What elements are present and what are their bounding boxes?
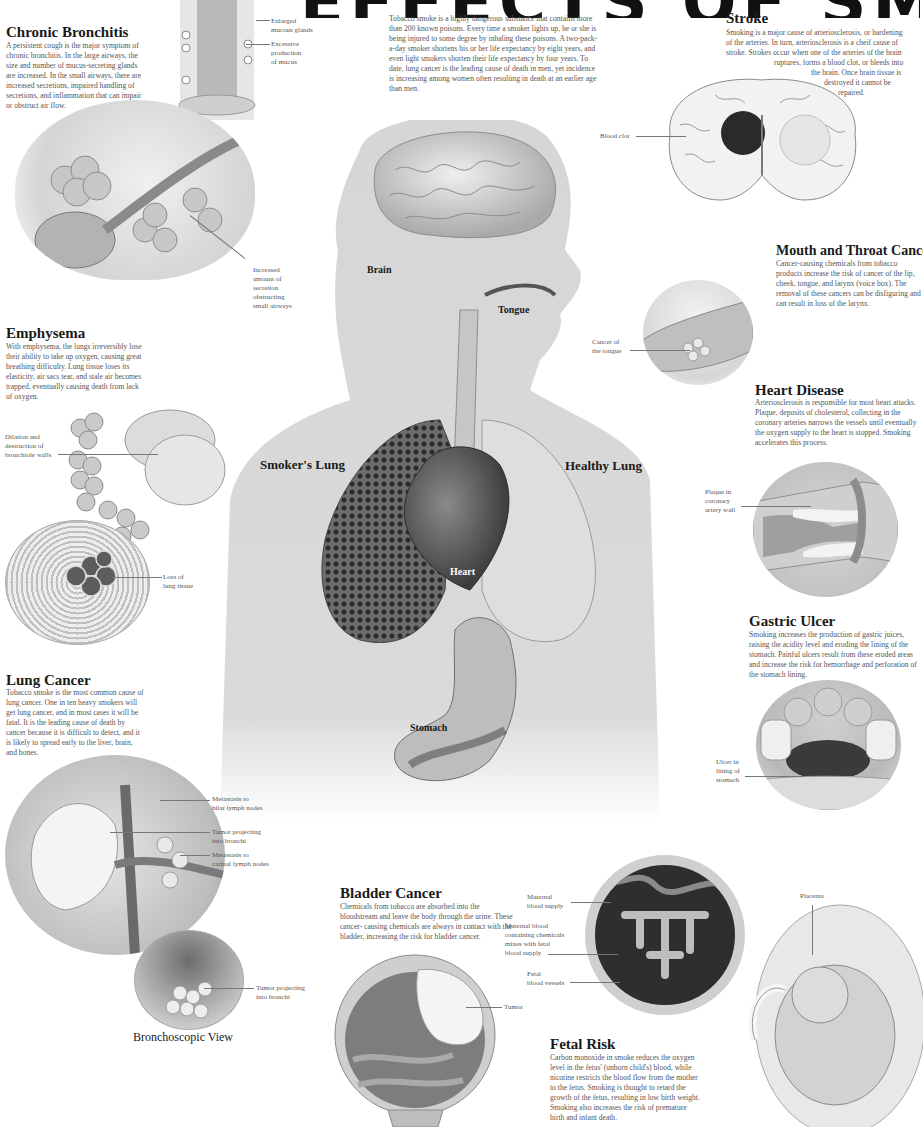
heading-bladder-cancer: Bladder Cancer — [340, 885, 442, 902]
leader-line — [636, 136, 686, 137]
callout-placenta: Placenta — [800, 892, 824, 901]
lung-tissue-circle-illustration — [5, 520, 150, 645]
heading-fetal-risk: Fetal Risk — [550, 1036, 615, 1053]
callout-excessive-mucus: Excessive production of mucus — [271, 40, 301, 67]
heading-stroke: Stroke — [726, 10, 768, 27]
label-smokers-lung: Smoker's Lung — [260, 457, 345, 473]
label-tongue: Tongue — [498, 304, 529, 315]
leader-line — [112, 577, 162, 578]
callout-dilation-bronchiole-walls: Dilation and destruction of bronchiole w… — [5, 433, 51, 460]
bladder-tumor-illustration — [333, 950, 498, 1127]
heading-heart-disease: Heart Disease — [755, 382, 844, 399]
text-emphysema: With emphysema, the lungs irreversibly l… — [6, 342, 142, 402]
heading-mouth-throat-cancer: Mouth and Throat Cancer — [776, 243, 923, 259]
leader-line — [246, 44, 270, 45]
callout-cancer-of-tongue: Cancer of the tongue — [592, 338, 621, 356]
label-stomach: Stomach — [410, 722, 447, 733]
stomach-ulcer-circle-illustration — [756, 680, 901, 810]
callout-loss-of-lung-tissue: Loss of lung tissue — [163, 573, 193, 591]
heading-lung-cancer: Lung Cancer — [6, 672, 91, 689]
callout-metastasis-hilar: Metastasis to hilar lymph nodes — [212, 795, 263, 813]
callout-increased-secretion: Increased amount of secretion obstructin… — [253, 266, 292, 311]
label-heart: Heart — [450, 566, 475, 577]
callout-metastasis-carinal: Metastasis to carinal lymph nodes — [212, 851, 269, 869]
text-gastric-ulcer: Smoking increases the production of gast… — [749, 630, 921, 680]
leader-line — [110, 832, 210, 833]
intro-paragraph: Tobacco smoke is a highly dangerous subs… — [389, 14, 599, 94]
text-lung-cancer: Tobacco smoke is the most common cause o… — [6, 688, 144, 758]
artery-plaque-circle-illustration — [753, 462, 898, 597]
leader-line — [571, 902, 611, 903]
text-heart-disease: Arteriosclerosis is responsible for most… — [755, 398, 920, 448]
label-healthy-lung: Healthy Lung — [565, 458, 642, 474]
heading-chronic-bronchitis: Chronic Bronchitis — [6, 24, 128, 41]
callout-tumor-bronchi-scope: Tumor projecting into bronchi — [256, 984, 305, 1002]
callout-maternal-blood-chemicals: Maternal blood containing chemicals mixe… — [505, 922, 564, 958]
leader-line — [812, 905, 813, 955]
brain-cross-section-illustration — [655, 75, 870, 205]
subheading-bronchoscopic-view: Bronchoscopic View — [133, 1030, 233, 1045]
leader-line — [58, 454, 158, 455]
leader-line — [741, 506, 811, 507]
fetus-illustration — [725, 870, 923, 1127]
label-brain: Brain — [367, 264, 391, 275]
leader-line — [160, 800, 210, 801]
callout-ulcer-lining: Ulcer in lining of stomach — [716, 758, 740, 785]
leader-line — [180, 855, 210, 856]
leader-line — [256, 20, 270, 21]
callout-tumor-bladder: Tumor — [504, 1003, 523, 1012]
leader-line — [466, 1007, 502, 1008]
text-mouth-throat-cancer: Cancer-causing chemicals from tobacco pr… — [776, 259, 922, 309]
bronchoscopic-view-illustration — [134, 930, 244, 1030]
tongue-cancer-circle-illustration — [643, 280, 753, 385]
small-airways-circle-illustration — [15, 100, 255, 280]
placenta-circle-illustration — [585, 855, 745, 1015]
callout-maternal-blood-supply: Maternal blood supply — [527, 893, 563, 911]
leader-line — [745, 776, 805, 777]
callout-tumor-bronchi: Tumor projecting into bronchi — [212, 828, 261, 846]
callout-fetal-blood-vessels: Fetal blood vessels — [527, 970, 565, 988]
text-fetal-risk: Carbon monoxide in smoke reduces the oxy… — [550, 1053, 700, 1123]
leader-line — [570, 982, 620, 983]
heading-gastric-ulcer: Gastric Ulcer — [749, 613, 835, 630]
callout-blood-clot: Blood clot — [600, 132, 629, 141]
text-bladder-cancer: Chemicals from tobacco are absorbed into… — [340, 902, 515, 942]
callout-plaque-artery-wall: Plaque in coronary artery wall — [705, 488, 735, 515]
callout-enlarged-mucous-glands: Enlarged mucous glands — [271, 17, 313, 35]
leader-line — [630, 350, 690, 351]
heading-emphysema: Emphysema — [6, 325, 85, 342]
leader-line — [204, 988, 254, 989]
